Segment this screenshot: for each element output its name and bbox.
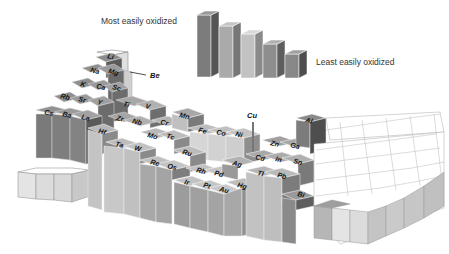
legend-most-oxidized: Most easily oxidized (101, 16, 177, 26)
element-symbol-pd: Pd (214, 169, 225, 178)
cu-callout: Cu (247, 111, 257, 120)
be-callout-label: Be (150, 71, 160, 80)
element-symbol-rh: Rh (196, 166, 207, 175)
legend-bar (219, 22, 241, 78)
legend-bar (241, 30, 263, 78)
element-symbol-zn: Zn (269, 139, 280, 148)
element-symbol-in: In (275, 155, 283, 163)
legend-bar (285, 50, 307, 78)
legend-least-oxidized: Least easily oxidized (316, 57, 394, 67)
periodic-oxidation-diagram: LiNaMgKCaScRbSrYCsBaLaTiVZrNbHfTaWCrMoTc… (0, 0, 449, 254)
legend-bars (197, 11, 307, 78)
element-blocks (18, 50, 444, 244)
be-callout: Be (130, 71, 160, 80)
element-symbol-sn: Sn (293, 157, 303, 166)
element-symbol-mo: Mo (147, 131, 159, 140)
legend-bar (263, 40, 285, 78)
legend-bar (197, 11, 219, 77)
cu-callout-label: Cu (247, 111, 257, 120)
element-symbol-ga: Ga (290, 141, 301, 150)
element-symbol-na: Na (90, 66, 100, 75)
